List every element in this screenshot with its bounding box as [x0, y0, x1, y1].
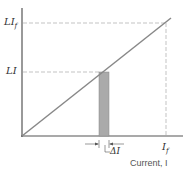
diagram [0, 0, 187, 171]
label-delta-i: ΔI [110, 146, 120, 156]
flux-line [22, 18, 171, 136]
delta-bar [99, 72, 109, 136]
label-i-f: If [162, 141, 169, 155]
label-li: LI [6, 65, 17, 76]
x-axis-label: Current, I [130, 158, 168, 168]
label-li-f: LIf [4, 16, 17, 30]
